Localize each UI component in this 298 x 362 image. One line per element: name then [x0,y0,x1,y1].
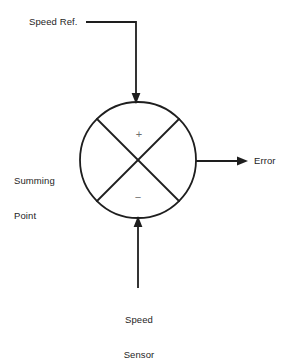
speed-sensor-label-line-2: Sensor [117,349,161,361]
plus-sign-label: + [132,128,146,140]
minus-sign-label: − [131,191,145,203]
speed-ref-connector-line [86,22,136,96]
summing-point-label: Summing Point [14,152,55,244]
summing-point-label-line-2: Point [14,210,55,222]
speed-ref-label: Speed Ref. [29,16,78,28]
error-label: Error [254,155,276,167]
summing-point-label-line-1: Summing [14,175,55,187]
error-output-arrowhead-icon [237,157,248,166]
speed-sensor-label-line-1: Speed [117,314,161,326]
speed-sensor-label: Speed Sensor [117,291,161,362]
